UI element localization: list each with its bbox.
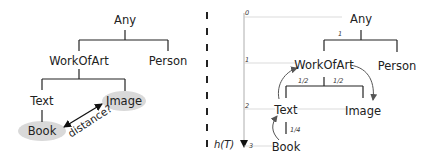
depth-level-3: 3: [249, 142, 253, 150]
depth-axis-arrowhead: [240, 140, 248, 148]
right-tree: 0 1 2 3 h(T) 1 1/2 1/2 1/4 Any WorkOfArt…: [214, 9, 416, 154]
depth-axis-label: h(T): [214, 139, 234, 150]
edge-weight-any: 1: [338, 30, 342, 38]
edge-weight-image: 1/2: [333, 77, 343, 85]
right-node-book: Book: [272, 140, 301, 154]
left-node-text: Text: [29, 94, 54, 108]
left-node-book: Book: [28, 124, 57, 138]
depth-level-1: 1: [245, 56, 249, 64]
left-tree: Any WorkOfArt Person Text Image Book dis…: [18, 13, 187, 141]
edge-weight-text: 1/2: [298, 77, 308, 85]
depth-level-0: 0: [245, 9, 249, 17]
left-node-person: Person: [149, 54, 188, 68]
left-node-workofart: WorkOfArt: [49, 54, 109, 68]
path-arrow-text-to-workofart: [278, 68, 297, 99]
taxonomy-diagram: Any WorkOfArt Person Text Image Book dis…: [0, 0, 432, 162]
distance-question-label: distance?: [66, 102, 115, 139]
left-node-image: Image: [106, 94, 142, 108]
right-node-person: Person: [378, 59, 417, 73]
edge-weight-book: 1/4: [290, 126, 300, 134]
right-node-text: Text: [273, 103, 298, 117]
left-node-any: Any: [114, 13, 136, 27]
right-node-image: Image: [345, 104, 381, 118]
right-node-workofart: WorkOfArt: [294, 58, 354, 72]
right-node-any: Any: [350, 12, 372, 26]
path-arrow-book-to-text: [273, 116, 279, 140]
depth-level-2: 2: [245, 102, 249, 110]
